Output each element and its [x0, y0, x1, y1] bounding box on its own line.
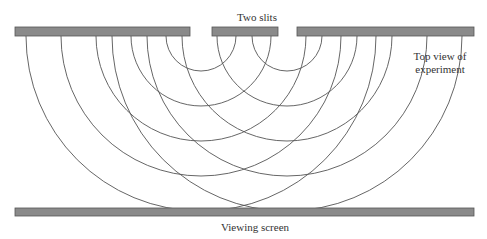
double-slit-diagram: [0, 0, 487, 239]
barrier-segment-1: [212, 27, 278, 36]
top-view-label: Top view of experiment: [400, 50, 480, 76]
wavefront-slit1-r1: [166, 36, 236, 71]
wavefront-slit2-r3: [182, 36, 392, 141]
two-slits-label: Two slits: [222, 11, 292, 24]
viewing-screen-label: Viewing screen: [200, 221, 310, 234]
top-view-label-line1: Top view of: [400, 50, 480, 63]
wavefronts: [26, 36, 462, 211]
wavefront-slit1-r5: [26, 36, 376, 211]
viewing-screen: [15, 208, 474, 216]
top-view-label-line2: experiment: [400, 63, 480, 76]
wavefront-slit2-r1: [252, 36, 322, 71]
wavefront-slit1-r3: [96, 36, 306, 141]
slit-barrier: [15, 27, 474, 36]
barrier-segment-0: [15, 27, 190, 36]
barrier-segment-2: [297, 27, 474, 36]
